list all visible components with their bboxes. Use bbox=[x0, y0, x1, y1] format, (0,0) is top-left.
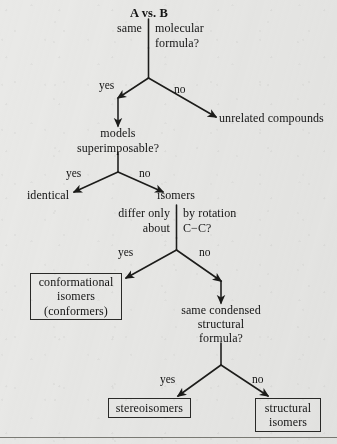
q1-no-label: no bbox=[174, 83, 186, 95]
q3-yes-label: yes bbox=[118, 246, 133, 258]
q2-line1: models bbox=[68, 127, 168, 141]
page-footer-rule bbox=[0, 437, 337, 438]
q3-right-line1: by rotation bbox=[183, 207, 273, 221]
conformational-box-line3: (conformers) bbox=[39, 304, 114, 318]
q1-left-label: same bbox=[78, 22, 142, 36]
q2-no-label: no bbox=[139, 167, 151, 179]
q4-no-label: no bbox=[252, 373, 264, 385]
structural-box-line2: isomers bbox=[265, 415, 311, 429]
q2-line2: superimposable? bbox=[48, 142, 188, 156]
q1-right-label-line2: formula? bbox=[155, 37, 245, 51]
q1-right-label-line1: molecular bbox=[155, 22, 245, 36]
terminal-isomers: isomers bbox=[145, 189, 207, 203]
stereoisomers-box-line1: stereoisomers bbox=[116, 401, 183, 415]
q4-line3: formula? bbox=[166, 332, 276, 346]
conformational-box-line2: isomers bbox=[39, 289, 114, 303]
q4-line2: structural bbox=[166, 318, 276, 332]
box-conformational-isomers: conformational isomers (conformers) bbox=[30, 273, 122, 320]
q1-yes-label: yes bbox=[99, 79, 114, 91]
terminal-unrelated-compounds: unrelated compounds bbox=[219, 112, 335, 126]
q3-left-line1: differ only bbox=[90, 207, 170, 221]
q3-left-line2: about bbox=[90, 222, 170, 236]
diagram-title: A vs. B bbox=[118, 6, 180, 21]
q2-yes-label: yes bbox=[66, 167, 81, 179]
q3-no-label: no bbox=[199, 246, 211, 258]
conformational-box-line1: conformational bbox=[39, 275, 114, 289]
flowchart-page: A vs. B same molecular formula? yes no u… bbox=[0, 0, 337, 444]
terminal-identical: identical bbox=[12, 189, 84, 203]
structural-box-line1: structural bbox=[265, 401, 311, 415]
box-stereoisomers: stereoisomers bbox=[108, 398, 191, 418]
box-structural-isomers: structural isomers bbox=[255, 398, 321, 432]
q4-line1: same condensed bbox=[166, 304, 276, 318]
q3-right-line2: C−C? bbox=[183, 222, 273, 236]
q4-yes-label: yes bbox=[160, 373, 175, 385]
